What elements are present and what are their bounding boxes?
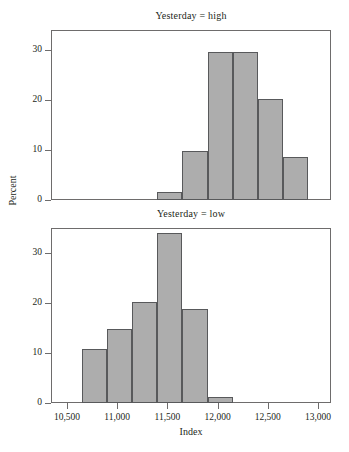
x-axis-tick [218,403,219,409]
x-axis-tick-label: 13,000 [305,412,331,422]
histogram-bar [283,157,308,201]
histogram-bar [132,302,157,403]
y-axis-tick-label: 10 [21,145,42,155]
x-axis-tick [117,403,118,409]
y-axis-tick [45,150,51,151]
y-axis-tick-label: 0 [21,195,42,205]
x-axis-tick-label: 10,500 [54,412,80,422]
y-axis-tick [45,100,51,101]
x-axis-tick-label: 11,000 [104,412,130,422]
histogram-bar [258,99,283,201]
panel-title-high: Yesterday = high [51,10,331,21]
y-axis-tick [45,200,51,201]
y-axis-tick [45,253,51,254]
x-axis-tick [268,403,269,409]
y-axis-tick-label: 20 [21,95,42,105]
y-axis-tick-label: 30 [21,248,42,258]
histogram-bar [233,52,258,200]
histogram-bar [157,192,182,200]
histogram-figure: Yesterday = high 0102030 Yesterday = low… [0,0,349,452]
panel-title-low: Yesterday = low [51,208,331,219]
y-axis-tick [45,50,51,51]
plot-area-high [51,30,331,200]
y-axis-tick-label: 20 [21,298,42,308]
x-axis-tick-label: 11,500 [155,412,181,422]
plot-area-low [51,228,331,403]
histogram-bar [182,151,207,200]
x-axis-tick [167,403,168,409]
y-axis-tick [45,303,51,304]
y-axis-tick [45,353,51,354]
x-axis-tick-label: 12,000 [205,412,231,422]
y-axis-label: Percent [7,161,18,221]
x-axis-tick-label: 12,500 [255,412,281,422]
x-axis-label: Index [51,426,331,437]
histogram-bar [107,329,132,403]
histogram-bar [157,233,182,403]
histogram-bar [208,52,233,200]
panel-yesterday-low [51,228,331,403]
panel-yesterday-high [51,30,331,200]
y-axis-tick-label: 10 [21,348,42,358]
x-axis-tick [318,403,319,409]
histogram-bar [182,309,207,403]
x-axis-tick [67,403,68,409]
y-axis-tick-label: 30 [21,45,42,55]
histogram-bar [82,349,107,403]
